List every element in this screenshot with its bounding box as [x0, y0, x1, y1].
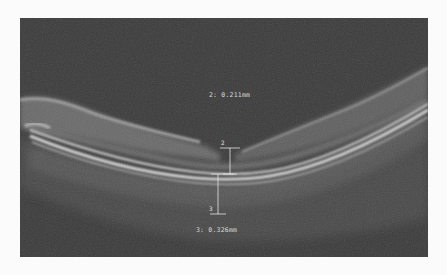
- retina-layers-graphic: [20, 18, 428, 257]
- measurement-2-label: 2: 0.211mm: [209, 92, 250, 99]
- measurement-2-tag: 2: [221, 140, 225, 146]
- measurement-3-tag: 3: [209, 206, 213, 212]
- oct-scan-image: 2: 0.211mm 2 3 3: 0.326mm: [20, 18, 428, 257]
- measurement-3-label: 3: 0.326mm: [196, 227, 237, 234]
